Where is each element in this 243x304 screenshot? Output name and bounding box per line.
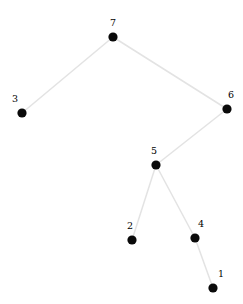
graph-node-label: 4 [198,219,204,229]
graph-node[interactable] [222,104,231,113]
graph-edge [22,37,113,113]
graph-edge [156,109,227,165]
graph-node-label: 5 [151,146,157,156]
graph-node-label: 1 [218,269,224,279]
graph-node-label: 7 [110,18,116,28]
graph-node[interactable] [208,283,217,292]
graph-node[interactable] [151,160,160,169]
graph-node[interactable] [17,108,26,117]
graph-node[interactable] [108,32,117,41]
graph-node-label: 2 [127,221,133,231]
graph-canvas: 7365241 [0,0,243,304]
graph-node[interactable] [190,233,199,242]
graph-node-label: 6 [228,90,234,100]
graph-node[interactable] [127,235,136,244]
graph-node-label: 3 [12,94,18,104]
graph-edge [132,165,156,240]
node-layer [17,32,231,292]
graph-edge [156,165,195,238]
edge-layer [22,37,227,288]
graph-svg [0,0,243,304]
graph-edge [195,238,213,288]
graph-edge [113,37,227,109]
